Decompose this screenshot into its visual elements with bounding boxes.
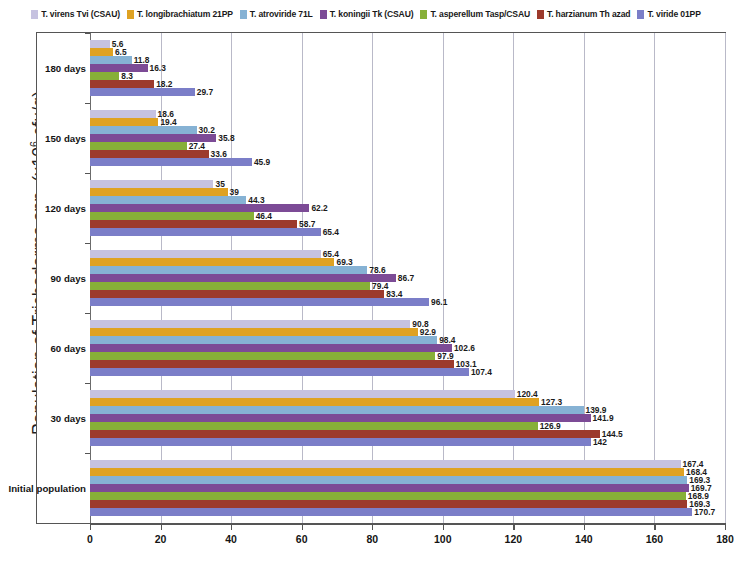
- bar[interactable]: [90, 142, 187, 150]
- bar-value-label: 96.1: [429, 297, 447, 307]
- bar-row: 168.9: [90, 492, 725, 500]
- bar[interactable]: [90, 204, 309, 212]
- bar[interactable]: [90, 220, 297, 228]
- category-label: 180 days: [45, 63, 86, 74]
- legend-item[interactable]: T. koningii Tk (CSAU): [320, 10, 414, 19]
- bar-row: 169.3: [90, 500, 725, 508]
- category-label: 60 days: [50, 343, 86, 354]
- bar[interactable]: [90, 56, 132, 64]
- category-tick: [85, 243, 90, 244]
- bar[interactable]: [90, 188, 228, 196]
- bar-value-label: 170.7: [692, 507, 715, 517]
- bar-row: 27.4: [90, 142, 725, 150]
- bar[interactable]: [90, 500, 687, 508]
- bar-group: 65.469.378.686.779.483.496.1: [90, 243, 725, 313]
- bar[interactable]: [90, 398, 539, 406]
- legend-item[interactable]: T. virens Tvi (CSAU): [31, 10, 120, 19]
- bar-row: 69.3: [90, 258, 725, 266]
- legend-item[interactable]: T. atroviride 71L: [240, 10, 313, 19]
- bar[interactable]: [90, 438, 591, 446]
- bar-group: 18.619.430.235.827.433.645.9: [90, 103, 725, 173]
- bar[interactable]: [90, 40, 110, 48]
- bar[interactable]: [90, 282, 370, 290]
- legend-item[interactable]: T. longibrachiatum 21PP: [127, 10, 233, 19]
- legend-item-label: T. viride 01PP: [647, 10, 700, 19]
- bar-group: 167.4168.4169.3169.7168.9169.3170.7: [90, 453, 725, 523]
- bar[interactable]: [90, 508, 692, 516]
- bar[interactable]: [90, 352, 435, 360]
- category-label: Initial population: [9, 483, 87, 494]
- bar-row: 79.4: [90, 282, 725, 290]
- bar[interactable]: [90, 266, 367, 274]
- bar[interactable]: [90, 258, 334, 266]
- bar[interactable]: [90, 88, 195, 96]
- bar[interactable]: [90, 126, 197, 134]
- bar[interactable]: [90, 80, 154, 88]
- bar[interactable]: [90, 406, 584, 414]
- bar[interactable]: [90, 468, 684, 476]
- bar-group: 353944.362.246.458.765.4: [90, 173, 725, 243]
- legend-swatch-icon: [127, 10, 134, 19]
- x-axis-tick: [90, 524, 91, 530]
- chart-legend: T. virens Tvi (CSAU)T. longibrachiatum 2…: [0, 0, 732, 28]
- bar-row: 35.8: [90, 134, 725, 142]
- bar[interactable]: [90, 48, 113, 56]
- bar[interactable]: [90, 320, 410, 328]
- bar[interactable]: [90, 290, 384, 298]
- legend-item[interactable]: T. harzianum Th azad: [537, 10, 630, 19]
- bar[interactable]: [90, 336, 437, 344]
- bar-value-label: 65.4: [321, 227, 339, 237]
- bar[interactable]: [90, 228, 321, 236]
- bar-row: 29.7: [90, 88, 725, 96]
- bar-row: 142: [90, 438, 725, 446]
- bar-row: 97.9: [90, 352, 725, 360]
- x-axis-tick: [584, 524, 585, 530]
- bar[interactable]: [90, 484, 689, 492]
- bar[interactable]: [90, 72, 119, 80]
- bar[interactable]: [90, 158, 252, 166]
- category-tick: [85, 453, 90, 454]
- bar-row: 96.1: [90, 298, 725, 306]
- legend-item-label: T. harzianum Th azad: [547, 10, 630, 19]
- bar-row: 139.9: [90, 406, 725, 414]
- bar-row: 107.4: [90, 368, 725, 376]
- plot-area: 167.4168.4169.3169.7168.9169.3170.7120.4…: [90, 33, 725, 523]
- bar[interactable]: [90, 414, 591, 422]
- category-tick: [85, 33, 90, 34]
- bar[interactable]: [90, 360, 454, 368]
- bar-row: 90.8: [90, 320, 725, 328]
- bar[interactable]: [90, 460, 681, 468]
- bar[interactable]: [90, 476, 687, 484]
- legend-swatch-icon: [240, 10, 247, 19]
- bar[interactable]: [90, 344, 452, 352]
- bar[interactable]: [90, 110, 156, 118]
- bar-row: 141.9: [90, 414, 725, 422]
- bar[interactable]: [90, 274, 396, 282]
- bar[interactable]: [90, 390, 515, 398]
- legend-item[interactable]: T. viride 01PP: [637, 10, 700, 19]
- bar[interactable]: [90, 422, 538, 430]
- bar[interactable]: [90, 196, 246, 204]
- bar[interactable]: [90, 368, 469, 376]
- bar[interactable]: [90, 250, 321, 258]
- bar[interactable]: [90, 298, 429, 306]
- legend-item-label: T. longibrachiatum 21PP: [137, 10, 233, 19]
- bar-row: 127.3: [90, 398, 725, 406]
- bar[interactable]: [90, 118, 158, 126]
- bar[interactable]: [90, 212, 254, 220]
- bar-row: 8.3: [90, 72, 725, 80]
- bar-row: 169.7: [90, 484, 725, 492]
- bar-value-label: 142: [591, 437, 607, 447]
- bar-row: 83.4: [90, 290, 725, 298]
- x-axis-tick: [513, 524, 514, 530]
- bar[interactable]: [90, 492, 686, 500]
- bar-row: 18.6: [90, 110, 725, 118]
- bar[interactable]: [90, 150, 209, 158]
- bar[interactable]: [90, 328, 418, 336]
- bar[interactable]: [90, 180, 213, 188]
- bar-row: 33.6: [90, 150, 725, 158]
- bar[interactable]: [90, 430, 600, 438]
- category-tick: [85, 313, 90, 314]
- bar-row: 5.6: [90, 40, 725, 48]
- legend-item[interactable]: T. asperellum Tasp/CSAU: [420, 10, 530, 19]
